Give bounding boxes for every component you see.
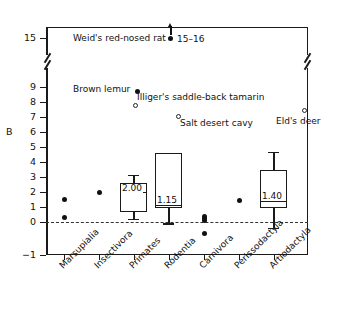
whisker-primates-lower: [133, 212, 134, 219]
y-tick-label-1: 1: [0, 202, 36, 212]
median-value-primates: 2.00: [121, 184, 143, 193]
y-tick-5: [40, 147, 46, 148]
whisker-artiodactyla-upper: [273, 152, 274, 171]
y-tick-8: [40, 102, 46, 103]
y-tick-label-neg1: −1: [0, 250, 36, 260]
data-point-carnivora-3: [202, 218, 207, 223]
annotation-salt-desert-cavy: Salt desert cavy: [180, 119, 253, 128]
annotation-illigers-saddle-back-tamarin: Illiger's saddle-back tamarin: [137, 93, 265, 102]
data-point-perissodactyla-1: [237, 198, 242, 203]
y-tick-9: [40, 87, 46, 88]
median-line-rodentia: [155, 205, 182, 206]
whisker-rodentia-lower: [168, 208, 169, 224]
data-point-insectivora-1: [97, 190, 102, 195]
plot-frame: [46, 27, 308, 255]
data-point-marsupialia-1: [62, 197, 67, 202]
y-tick-4: [40, 162, 46, 163]
whisker-cap-rodentia-lower: [163, 223, 174, 224]
whisker-cap-artiodactyla-upper: [268, 152, 279, 153]
y-axis-title: B: [6, 127, 13, 137]
y-tick-1: [40, 207, 46, 208]
data-point-elds-deer: [302, 108, 307, 113]
annotation-brown-lemur: Brown lemur: [73, 85, 130, 94]
off-scale-arrow-stem: [170, 26, 171, 35]
box-artiodactyla: [260, 170, 287, 208]
off-scale-arrow-up-icon: [168, 23, 172, 27]
y-tick-label-3: 3: [0, 172, 36, 182]
y-tick-label-9: 9: [0, 82, 36, 92]
data-point-marsupialia-2: [62, 215, 67, 220]
y-tick-7: [40, 117, 46, 118]
median-value-artiodactyla: 1.40: [261, 192, 283, 201]
y-tick-label-5: 5: [0, 142, 36, 152]
y-tick-15: [40, 38, 46, 39]
y-tick-label-15: 15: [0, 33, 36, 43]
y-tick-2: [40, 192, 46, 193]
y-tick-label-7: 7: [0, 112, 36, 122]
y-tick-neg1: [40, 255, 46, 256]
median-line-artiodactyla: [260, 201, 287, 202]
whisker-cap-primates-upper: [128, 175, 139, 176]
y-tick-6: [40, 132, 46, 133]
annotation-weids-red-nosed-rat: Weid's red-nosed rat: [73, 34, 166, 43]
median-value-rodentia: 1.15: [156, 196, 178, 205]
whisker-cap-primates-lower: [128, 219, 139, 220]
y-tick-label-2: 2: [0, 187, 36, 197]
chart-root: 15 9 8 7 6 B 5 4 3 2 1 0 −1 Marsupialia …: [0, 0, 346, 323]
annotation-weids-red-nosed-rat-value: 15–16: [177, 35, 204, 44]
zero-reference-line: [46, 222, 308, 223]
y-tick-3: [40, 177, 46, 178]
whisker-cap-artiodactyla-lower: [268, 228, 279, 229]
data-point-carnivora-4: [202, 231, 207, 236]
data-point-illigers-saddle-back-tamarin: [133, 103, 138, 108]
y-tick-label-8: 8: [0, 97, 36, 107]
y-tick-label-4: 4: [0, 157, 36, 167]
annotation-elds-deer: Eld's deer: [276, 117, 320, 126]
whisker-artiodactyla-lower: [273, 208, 274, 228]
y-tick-label-0: 0: [0, 217, 36, 227]
